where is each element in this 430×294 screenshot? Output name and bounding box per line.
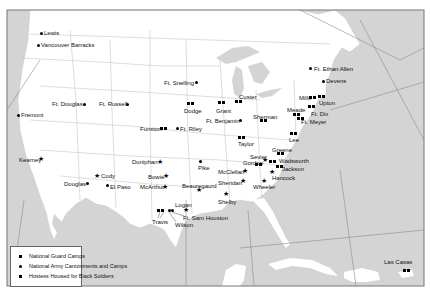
site-label-funston: Funston: [140, 126, 162, 133]
site-label-taylor: Taylor: [238, 141, 254, 148]
site-label-mills: Mills: [299, 95, 311, 102]
star-marker-icon: ★: [223, 190, 229, 197]
dot-marker-icon: [176, 127, 179, 130]
site-label-vancouver-barracks: Vancouver Barracks: [41, 42, 95, 49]
dot-marker-icon: [17, 114, 20, 117]
site-label-ft-meyer: Ft. Meyer: [301, 119, 326, 126]
dot-marker-icon: [199, 160, 202, 163]
site-label-pike: Pike: [198, 165, 210, 172]
site-label-upton: Upton: [319, 100, 335, 107]
dot-marker-icon: [19, 265, 22, 268]
site-label-travis: Travis: [152, 219, 168, 226]
site-label-fremont: Fremont: [21, 112, 43, 119]
site-label-ft-dix: Ft. Dix: [311, 111, 328, 118]
site-label-shelby: Shelby: [218, 199, 236, 206]
site-label-ft-snelling: Ft. Snelling: [164, 80, 194, 87]
site-label-ft-douglas: Ft. Douglas: [52, 101, 83, 108]
site-label-jackson: Jackson: [282, 166, 304, 173]
site-label-ft-benjamin: Ft. Benjamin: [206, 118, 240, 125]
site-label-hancock: Hancock: [272, 175, 295, 182]
square-marker-icon: [19, 275, 22, 278]
site-label-el-paso: El Paso: [110, 184, 131, 191]
site-label-mcarthur: McArthur: [140, 184, 164, 191]
star-marker-icon: ★: [157, 158, 163, 165]
legend-label: National Army Cantonments and Camps: [29, 263, 127, 269]
legend-label: Hostess Housed for Black Soldiers: [29, 273, 114, 279]
site-label-custer: Custer: [239, 94, 257, 101]
star-marker-icon: ★: [261, 177, 267, 184]
site-label-greene: Greene: [272, 147, 292, 154]
site-label-dodge: Dodge: [184, 108, 202, 115]
site-label-sherman: Sherman: [253, 114, 277, 121]
site-label-wilson: Wilson: [175, 222, 193, 229]
site-label-wheeler: Wheeler: [253, 184, 275, 191]
site-label-douglas: Douglas: [64, 181, 86, 188]
site-label-ft-ethan-allen: Ft. Ethan Allen: [314, 66, 353, 73]
dot-marker-icon: [171, 209, 174, 212]
dot-marker-icon: [322, 80, 325, 83]
dot-marker-icon: [195, 81, 198, 84]
site-label-wadsworth: Wadsworth: [279, 158, 309, 165]
dot-marker-icon: [83, 103, 86, 106]
site-label-ft-riley: Ft. Riley: [180, 126, 202, 133]
legend-label: National Guard Camps: [29, 253, 85, 259]
star-marker-icon: ★: [269, 168, 275, 175]
dot-marker-icon: [309, 67, 312, 70]
site-label-ft-russell: Ft. Russell: [99, 101, 127, 108]
site-label-kearney: Kearney: [19, 157, 41, 164]
site-label-devens: Devens: [326, 78, 346, 85]
dot-marker-icon: [40, 32, 43, 35]
site-label-meade: Meade: [287, 107, 305, 114]
site-label-doniphan: Doniphan: [132, 159, 158, 166]
dot-marker-icon: [86, 182, 89, 185]
star-marker-icon: ★: [94, 172, 100, 179]
site-label-las-casas: Las Casas: [384, 259, 412, 266]
site-label-grant: Grant: [216, 108, 231, 115]
site-label-logan: Logan: [175, 202, 192, 209]
site-label-sheridan: Sheridan: [218, 180, 242, 187]
star-marker-icon: [19, 255, 22, 258]
site-label-mcclellan: McClellan: [218, 169, 244, 176]
dot-marker-icon: [37, 44, 40, 47]
site-label-beauregaurd: Beauregaurd: [182, 183, 217, 190]
dot-marker-icon: [106, 184, 109, 187]
site-label-ft-sam-houston: Ft. Sam Houston: [183, 215, 228, 222]
site-label-cody: Cody: [101, 173, 115, 180]
legend: National Guard Camps National Army Canto…: [10, 246, 82, 287]
site-label-lee: Lee: [289, 137, 299, 144]
site-label-lewis: Lewis: [44, 30, 59, 37]
site-label-gordon: Gordon: [243, 160, 263, 167]
site-label-bowie: Bowie: [148, 174, 164, 181]
